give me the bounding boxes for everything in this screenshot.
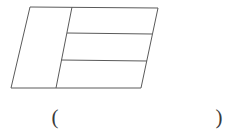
- figure-page: ( ): [0, 0, 241, 136]
- answer-row: ( ): [0, 100, 241, 136]
- outer-parallelogram-outline: [11, 7, 158, 88]
- answer-blank-field[interactable]: [62, 100, 212, 136]
- answer-left-parenthesis: (: [48, 100, 62, 136]
- slanted-divider-line: [56, 7, 72, 88]
- answer-right-parenthesis: ): [212, 100, 226, 136]
- horizontal-divider-lower: [61, 60, 147, 61]
- horizontal-divider-upper: [67, 33, 152, 34]
